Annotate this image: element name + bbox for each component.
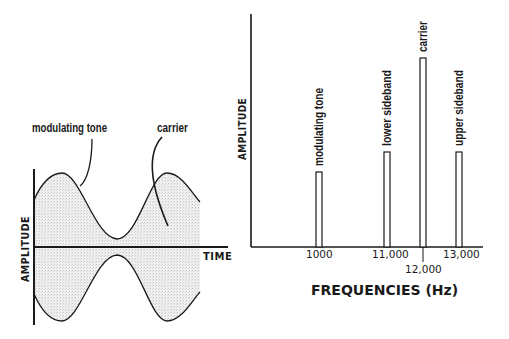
- bar-carrier: [420, 58, 426, 247]
- time-domain-diagram: modulating tone carrier TIME AMPLITUDE: [20, 120, 232, 325]
- bar-label-lower-sideband: lower sideband: [379, 70, 394, 146]
- bar-label-upper-sideband: upper sideband: [451, 70, 466, 146]
- modulating-tone-label: modulating tone: [32, 120, 107, 135]
- tick-12000: 12,000: [405, 263, 442, 275]
- tick-13000: 13,000: [443, 248, 480, 260]
- tick-1000: 1000: [306, 248, 333, 260]
- modulating-tone-leader: [80, 139, 92, 186]
- figure: modulating tone carrier TIME AMPLITUDE m…: [0, 0, 509, 339]
- frequency-axis-title: FREQUENCIES (Hz): [311, 282, 458, 298]
- carrier-label: carrier: [157, 120, 188, 135]
- time-axis-label: TIME: [203, 251, 232, 262]
- tick-11000: 11,000: [372, 248, 409, 260]
- bar-modulating-tone: [316, 172, 322, 247]
- bar-label-carrier: carrier: [415, 21, 430, 52]
- bar-upper-sideband: [456, 152, 462, 247]
- amplitude-axis-label-right: AMPLITUDE: [237, 98, 248, 160]
- frequency-spectrum-chart: modulating tone lower sideband carrier u…: [237, 14, 483, 298]
- amplitude-axis-label-left: AMPLITUDE: [20, 216, 31, 282]
- bar-label-modulating-tone: modulating tone: [311, 88, 326, 166]
- bar-lower-sideband: [384, 152, 390, 247]
